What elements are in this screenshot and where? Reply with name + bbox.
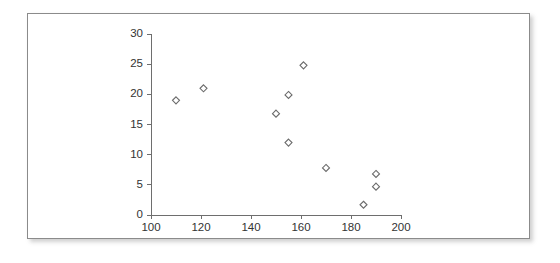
- x-tick-label: 160: [291, 221, 310, 233]
- scatter-point: [373, 170, 380, 177]
- x-tick-label: 140: [241, 221, 260, 233]
- scatter-point: [273, 110, 280, 117]
- figure-frame: 051015202530 100120140160180200: [27, 13, 530, 239]
- x-tick-label: 100: [141, 221, 160, 233]
- scatter-point: [173, 97, 180, 104]
- x-tick-label: 180: [341, 221, 360, 233]
- x-axis: 100120140160180200: [141, 215, 410, 233]
- scatter-point: [323, 164, 330, 171]
- scatter-point: [373, 183, 380, 190]
- y-tick-label: 10: [130, 148, 143, 160]
- scatter-plot: 051015202530 100120140160180200: [28, 14, 531, 240]
- y-tick-label: 30: [130, 27, 143, 39]
- scatter-point: [285, 91, 292, 98]
- y-axis: 051015202530: [130, 27, 151, 220]
- scatter-point: [200, 85, 207, 92]
- y-tick-label: 20: [130, 87, 143, 99]
- y-tick-label: 25: [130, 57, 143, 69]
- screenshot-root: 051015202530 100120140160180200: [0, 0, 560, 263]
- y-tick-label: 0: [137, 208, 143, 220]
- scatter-point: [285, 139, 292, 146]
- x-tick-label: 120: [191, 221, 210, 233]
- y-tick-label: 15: [130, 118, 143, 130]
- y-tick-label: 5: [137, 178, 143, 190]
- data-points: [173, 62, 380, 208]
- plot-canvas: 051015202530 100120140160180200: [28, 14, 531, 240]
- x-tick-label: 200: [391, 221, 410, 233]
- scatter-point: [300, 62, 307, 69]
- scatter-point: [360, 201, 367, 208]
